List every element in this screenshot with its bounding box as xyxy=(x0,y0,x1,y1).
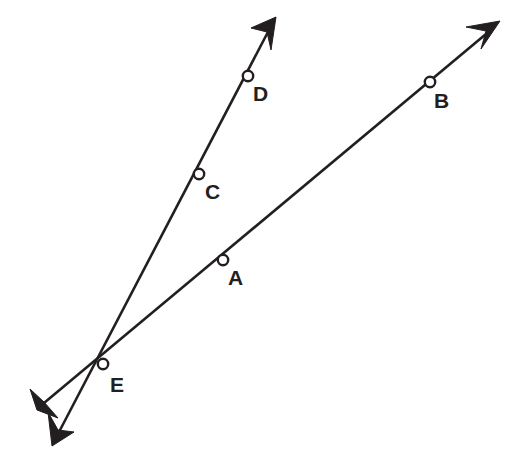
point-label-a: A xyxy=(228,266,243,289)
geometry-svg: ABCDE xyxy=(0,0,514,468)
point-marker-a xyxy=(218,255,228,265)
line-ECD xyxy=(59,30,269,432)
geometry-diagram-canvas: ABCDE xyxy=(0,0,514,468)
point-label-d: D xyxy=(253,82,268,105)
point-marker-b xyxy=(425,77,435,87)
point-label-e: E xyxy=(110,373,124,396)
point-marker-d xyxy=(243,71,253,81)
point-marker-e xyxy=(98,359,108,369)
arrowhead-icon xyxy=(251,17,276,50)
points-layer xyxy=(98,71,435,369)
point-marker-c xyxy=(194,169,204,179)
point-label-c: C xyxy=(205,180,220,203)
point-label-b: B xyxy=(434,89,449,112)
